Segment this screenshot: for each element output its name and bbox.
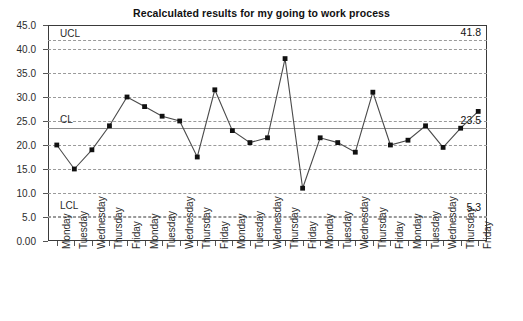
- data-point-marker: [476, 109, 481, 114]
- data-point-marker: [300, 186, 305, 191]
- data-point-marker: [406, 138, 411, 143]
- data-point-marker: [388, 143, 393, 148]
- data-point-marker: [318, 135, 323, 140]
- data-point-marker: [423, 123, 428, 128]
- data-point-marker: [54, 143, 59, 148]
- data-point-marker: [72, 167, 77, 172]
- data-point-marker: [335, 140, 340, 145]
- data-point-marker: [160, 114, 165, 119]
- data-point-marker: [177, 119, 182, 124]
- data-point-marker: [195, 155, 200, 160]
- data-point-marker: [142, 104, 147, 109]
- data-point-marker: [441, 145, 446, 150]
- data-point-marker: [90, 147, 95, 152]
- data-point-marker: [353, 150, 358, 155]
- data-point-marker: [230, 128, 235, 133]
- data-series-line: [0, 0, 523, 321]
- data-point-marker: [248, 140, 253, 145]
- control-chart: Recalculated results for my going to wor…: [0, 0, 523, 321]
- series-polyline: [57, 59, 478, 189]
- data-point-marker: [283, 56, 288, 61]
- data-point-marker: [212, 87, 217, 92]
- data-point-marker: [458, 126, 463, 131]
- data-point-marker: [370, 90, 375, 95]
- data-point-marker: [107, 123, 112, 128]
- data-point-marker: [265, 135, 270, 140]
- data-point-marker: [125, 95, 130, 100]
